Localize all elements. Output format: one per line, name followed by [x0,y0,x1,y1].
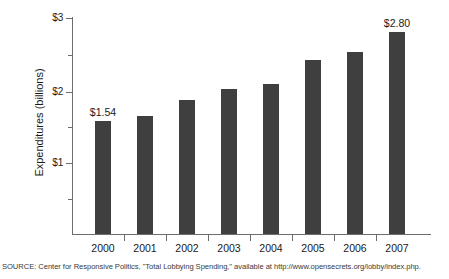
bar-2007[interactable] [389,32,405,234]
y-tick-label-1-wrap: $1 [30,158,63,168]
x-tick-sep-4 [250,235,251,241]
x-axis-label-2002: 2002 [167,243,207,254]
x-tick-sep-1 [124,235,125,241]
lobbying-expenditures-bar-chart: Expenditures (billions) $3 $2 $1 [0,0,449,279]
bar-value-label-2007: $2.80 [372,18,422,29]
bar-value-label-2000: $1.54 [78,107,128,118]
x-tick-sep-5 [292,235,293,241]
bar-2003[interactable] [221,89,237,234]
y-tick-label-1: $1 [33,158,63,168]
x-axis-line [72,234,431,235]
x-tick-sep-7 [376,235,377,241]
y-axis-title: Expenditures (billions) [34,53,45,193]
plot-area: Expenditures (billions) $3 $2 $1 [0,0,449,256]
y-tick-label-2: $2 [33,87,63,97]
bar-2006[interactable] [347,52,363,234]
x-tick-sep-2 [166,235,167,241]
y-tick-minor-1-5 [68,127,73,128]
y-tick-2 [66,92,73,93]
x-axis-label-2007: 2007 [377,243,417,254]
source-note: SOURCE: Center for Responsive Politics, … [2,262,448,271]
y-tick-minor-2-5 [68,55,73,56]
x-axis-label-2001: 2001 [125,243,165,254]
x-axis-label-2006: 2006 [335,243,375,254]
y-axis-line [72,17,73,235]
y-tick-3 [66,18,73,19]
bar-2005[interactable] [305,60,321,234]
x-axis-label-2005: 2005 [293,243,333,254]
y-tick-1 [66,163,73,164]
y-tick-minor-0-5 [68,199,73,200]
bar-2000[interactable] [95,121,111,234]
x-axis-label-2003: 2003 [209,243,249,254]
x-axis-label-2000: 2000 [83,243,123,254]
bar-2001[interactable] [137,116,153,234]
bar-2002[interactable] [179,100,195,234]
x-tick-sep-6 [334,235,335,241]
bar-2004[interactable] [263,84,279,234]
y-tick-label-2-wrap: $2 [30,87,63,97]
y-tick-label-3-wrap: $3 [30,13,63,23]
x-axis-label-2004: 2004 [251,243,291,254]
y-tick-label-3: $3 [33,13,63,23]
x-tick-sep-3 [208,235,209,241]
